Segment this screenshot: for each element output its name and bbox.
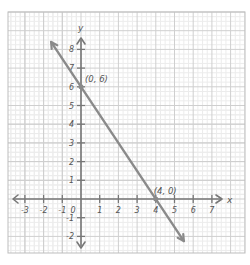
point-marker: [79, 84, 84, 89]
point-label: (4, 0): [154, 186, 177, 196]
y-tick-label: 2: [69, 158, 74, 167]
y-axis-label: y: [77, 23, 84, 33]
y-tick-label: 1: [69, 176, 74, 185]
grid-major: [8, 12, 245, 253]
x-tick-label: -2: [40, 206, 48, 215]
x-tick-label: 5: [172, 206, 177, 215]
point-label: (0, 6): [85, 74, 108, 84]
x-tick-label: 1: [97, 206, 102, 215]
coordinate-plane: xy-3-2-112345670-2-112345678 (0, 6)(4, 0…: [0, 0, 250, 265]
x-tick-label: 7: [209, 206, 215, 215]
x-tick-label: 2: [116, 206, 121, 215]
y-tick-label: 6: [69, 83, 74, 92]
x-tick-label: -3: [21, 206, 29, 215]
y-tick-label: 4: [69, 120, 74, 129]
point-marker: [153, 197, 158, 202]
x-tick-label: 4: [153, 206, 158, 215]
y-tick-label: 8: [69, 45, 74, 54]
x-tick-label: 6: [191, 206, 196, 215]
y-tick-label: -1: [66, 214, 74, 223]
y-tick-label: 5: [69, 102, 74, 111]
x-axis-label: x: [226, 195, 233, 205]
y-tick-label: 3: [69, 139, 74, 148]
x-tick-label: 3: [135, 206, 140, 215]
y-tick-label: -2: [66, 232, 74, 241]
